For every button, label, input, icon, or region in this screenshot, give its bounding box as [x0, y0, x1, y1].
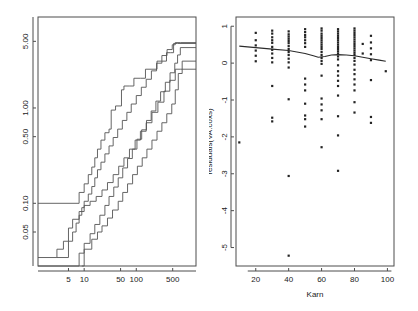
right-x-tick-label: 60	[317, 275, 326, 284]
scatter-point	[320, 35, 322, 37]
scatter-point	[337, 48, 339, 50]
right-y-tick-label: -2	[220, 133, 229, 141]
scatter-point	[353, 63, 355, 65]
scatter-point	[304, 31, 306, 33]
right-y-axis-title: residuals(VA.coxs)	[209, 108, 214, 174]
scatter-point	[320, 44, 322, 46]
scatter-point	[288, 51, 290, 53]
right-x-axis: 20406080100	[248, 268, 395, 284]
scatter-point	[304, 28, 306, 30]
scatter-point	[288, 61, 290, 63]
scatter-point	[353, 57, 355, 59]
scatter-point	[353, 73, 355, 75]
scatter-point	[337, 170, 339, 172]
scatter-point	[353, 36, 355, 38]
scatter-point	[271, 39, 273, 41]
scatter-point	[271, 117, 273, 119]
scatter-point	[337, 80, 339, 82]
scatter-point	[304, 118, 306, 120]
scatter-point	[353, 69, 355, 71]
scatter-point	[353, 47, 355, 49]
scatter-point	[337, 33, 339, 35]
scatter-point	[288, 45, 290, 47]
scatter-point	[353, 78, 355, 80]
figure-canvas: 0.050.100.501.005.0051050100500 10-1-2-3…	[0, 0, 418, 311]
right-x-tick-label: 80	[350, 275, 359, 284]
scatter-point	[353, 43, 355, 45]
scatter-point	[353, 32, 355, 34]
scatter-point	[320, 33, 322, 35]
scatter-point	[353, 30, 355, 32]
left-step-curves	[38, 43, 196, 266]
left-x-axis: 51050100500	[38, 268, 196, 284]
scatter-point	[337, 30, 339, 32]
scatter-point	[288, 255, 290, 257]
right-y-tick-label: -5	[220, 243, 229, 251]
scatter-point	[337, 50, 339, 52]
scatter-point	[320, 51, 322, 53]
scatter-point	[304, 89, 306, 91]
scatter-point	[370, 122, 372, 124]
scatter-point	[288, 175, 290, 177]
scatter-point	[353, 34, 355, 36]
scatter-point	[304, 46, 306, 48]
scatter-point	[370, 79, 372, 81]
scatter-point	[320, 75, 322, 77]
left-plot-svg: 0.050.100.501.005.0051050100500	[0, 0, 209, 311]
right-y-tick-label: -1	[220, 96, 229, 104]
scatter-point	[320, 60, 322, 62]
left-y-axis: 0.050.100.501.005.00	[21, 17, 36, 266]
left-plot-frame	[38, 17, 196, 266]
scatter-point	[288, 40, 290, 42]
right-y-tick-label: 1	[220, 23, 229, 28]
right-x-tick-label: 40	[284, 275, 293, 284]
scatter-point	[370, 116, 372, 118]
left-plot-panel: 0.050.100.501.005.0051050100500	[0, 0, 209, 311]
scatter-point	[271, 30, 273, 32]
scatter-point	[271, 120, 273, 122]
scatter-point	[320, 27, 322, 29]
right-y-axis: 10-1-2-3-4-5	[220, 23, 234, 251]
scatter-point	[370, 41, 372, 43]
scatter-point	[353, 52, 355, 54]
scatter-point	[385, 70, 387, 72]
left-y-tick-label: 0.10	[21, 195, 30, 211]
scatter-point	[337, 39, 339, 41]
right-x-axis-title: Karn	[307, 290, 324, 299]
step-curve-lower-inner	[82, 61, 196, 266]
scatter-point	[255, 55, 257, 57]
scatter-point	[255, 44, 257, 46]
scatter-point	[353, 27, 355, 29]
scatter-point	[353, 101, 355, 103]
scatter-point	[271, 61, 273, 63]
right-plot-svg: 10-1-2-3-4-5residuals(VA.coxs)2040608010…	[209, 0, 418, 311]
scatter-point	[320, 39, 322, 41]
scatter-point	[304, 83, 306, 85]
scatter-point	[238, 141, 240, 143]
scatter-point	[288, 54, 290, 56]
scatter-point	[370, 35, 372, 37]
scatter-point	[288, 33, 290, 35]
scatter-point	[255, 60, 257, 62]
scatter-point	[288, 38, 290, 40]
scatter-point	[353, 45, 355, 47]
scatter-point	[271, 36, 273, 38]
scatter-point	[288, 58, 290, 60]
scatter-point	[337, 44, 339, 46]
scatter-point	[362, 43, 364, 45]
scatter-point	[271, 46, 273, 48]
scatter-point	[320, 146, 322, 148]
scatter-point	[353, 111, 355, 113]
scatter-point	[320, 30, 322, 32]
scatter-point	[271, 52, 273, 54]
right-y-tick-label: 0	[220, 60, 229, 65]
scatter-point	[271, 42, 273, 44]
scatter-point	[320, 103, 322, 105]
scatter-point	[337, 85, 339, 87]
scatter-point	[353, 83, 355, 85]
scatter-point	[337, 35, 339, 37]
scatter-point	[337, 58, 339, 60]
scatter-point	[320, 109, 322, 111]
scatter-point	[288, 98, 290, 100]
left-y-tick-label: 5.00	[21, 33, 30, 49]
